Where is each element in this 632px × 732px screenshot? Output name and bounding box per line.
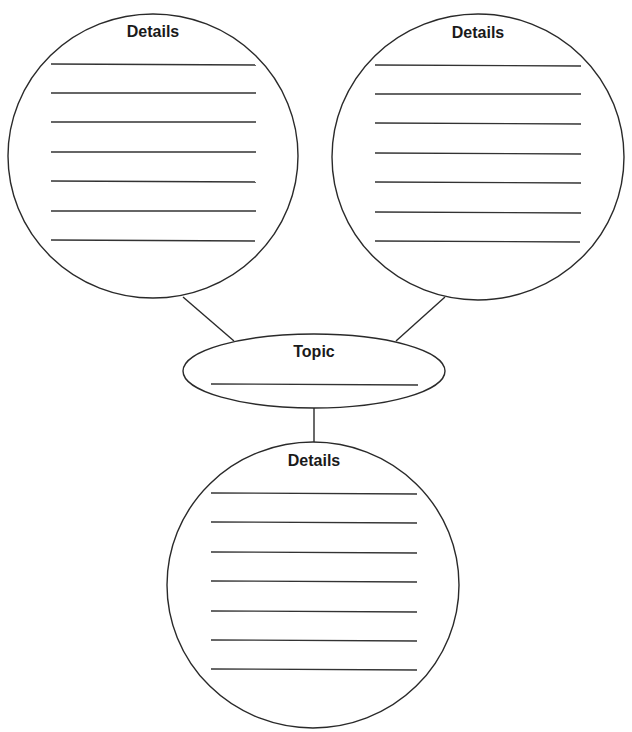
connector-topic-to-top-left [183,297,234,341]
details-circle-top-right: Details [332,14,624,300]
graphic-organizer: Details Details Topic Details [0,0,632,732]
details-circle-top-left: Details [8,14,298,298]
topic-ellipse: Topic [183,334,445,408]
details-circle-top-left-label: Details [127,23,180,40]
connector-topic-to-top-right [396,297,445,341]
topic-label: Topic [293,343,335,360]
details-circle-bottom-label: Details [288,452,341,469]
details-circle-top-right-label: Details [452,24,505,41]
details-circle-bottom: Details [167,442,459,728]
